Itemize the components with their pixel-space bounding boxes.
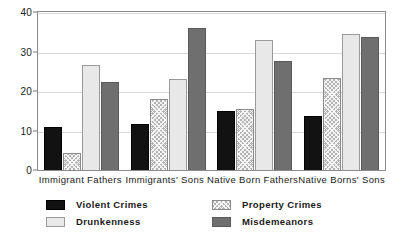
- legend-swatch-icon-drunkenness: [46, 217, 65, 227]
- legend-label-property-crimes: Property Crimes: [242, 199, 322, 210]
- bar: [44, 127, 62, 170]
- x-axis-tick-label: Native Borns' Sons: [298, 173, 385, 189]
- bar: [150, 99, 168, 170]
- legend-item-misdemeanors: Misdemeanors: [212, 215, 313, 228]
- bar: [361, 37, 379, 170]
- bar-group: [38, 12, 125, 170]
- x-axis-tick-label: Immigrant Fathers: [38, 173, 123, 189]
- y-axis-tick-label: 40: [20, 7, 32, 18]
- y-axis-tick-label: 0: [26, 165, 32, 176]
- bar: [255, 40, 273, 170]
- bar: [236, 109, 254, 170]
- bar: [82, 65, 100, 170]
- x-axis-tick-label: Native Born Fathers: [207, 173, 298, 189]
- bar-groups: [38, 12, 385, 170]
- y-axis: 010203040: [0, 11, 37, 171]
- y-tick-mark: [33, 51, 37, 52]
- y-axis-tick-label: 30: [20, 46, 32, 57]
- bar: [169, 79, 187, 170]
- bar: [217, 111, 235, 170]
- bar: [63, 153, 81, 170]
- legend-label-drunkenness: Drunkenness: [76, 216, 141, 227]
- page-bleed-text: [8, 234, 338, 241]
- bar-group: [125, 12, 212, 170]
- legend-swatch-icon-property-crimes: [212, 200, 231, 210]
- y-axis-tick-label: 20: [20, 86, 32, 97]
- chart-legend: Violent Crimes Drunkenness Property Crim…: [0, 198, 400, 232]
- bar: [131, 124, 149, 170]
- legend-swatch-icon-violent-crimes: [46, 200, 65, 210]
- x-axis: Immigrant FathersImmigrants' SonsNative …: [38, 173, 385, 189]
- legend-item-drunkenness: Drunkenness: [46, 215, 141, 228]
- y-tick-mark: [33, 130, 37, 131]
- legend-label-misdemeanors: Misdemeanors: [242, 216, 313, 227]
- legend-item-violent-crimes: Violent Crimes: [46, 198, 148, 211]
- bar: [188, 28, 206, 170]
- legend-swatch-icon-misdemeanors: [212, 217, 231, 227]
- legend-item-property-crimes: Property Crimes: [212, 198, 322, 211]
- bar: [342, 34, 360, 170]
- legend-label-violent-crimes: Violent Crimes: [76, 199, 148, 210]
- bar-chart: 010203040 Immigrant FathersImmigrants' S…: [0, 0, 400, 243]
- bar: [323, 78, 341, 170]
- bar: [274, 61, 292, 170]
- bar-group: [212, 12, 299, 170]
- x-axis-tick-label: Immigrants' Sons: [123, 173, 208, 189]
- y-tick-mark: [33, 12, 37, 13]
- bar-group: [298, 12, 385, 170]
- bar: [304, 116, 322, 170]
- y-axis-tick-label: 10: [20, 125, 32, 136]
- y-tick-mark: [33, 170, 37, 171]
- y-tick-mark: [33, 91, 37, 92]
- bar: [101, 82, 119, 170]
